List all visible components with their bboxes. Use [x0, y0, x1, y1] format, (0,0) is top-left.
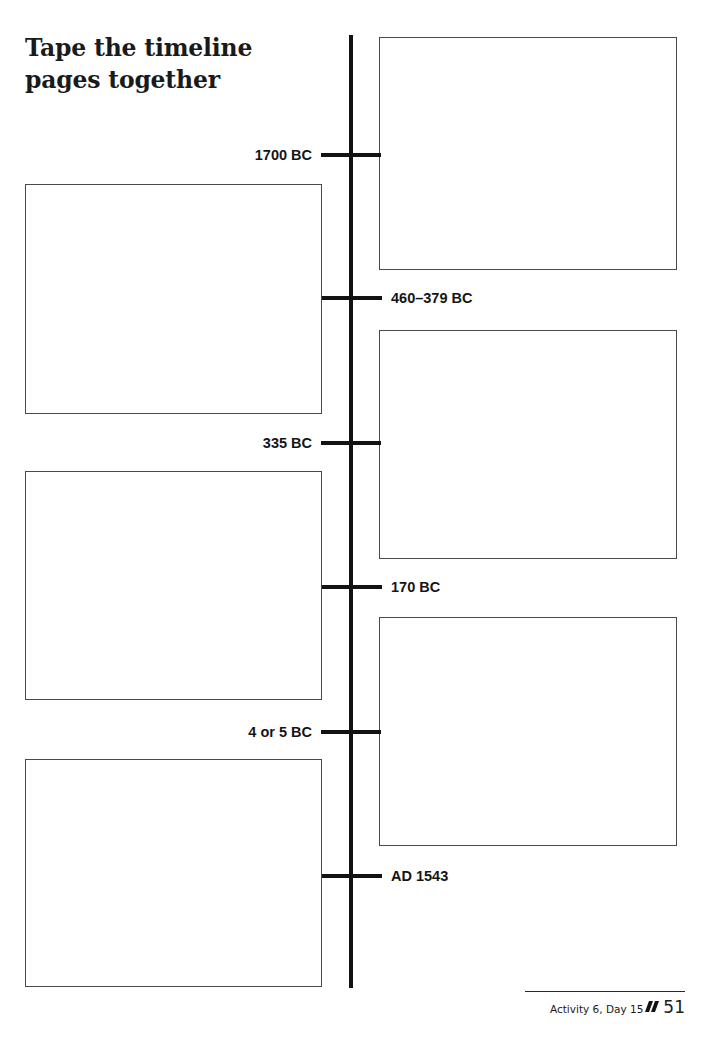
- timeline-tick-rule: [322, 296, 382, 299]
- frame-right-2: [379, 330, 677, 559]
- footer-divider: [525, 991, 685, 992]
- footer-slash-marks-icon: [647, 1001, 657, 1012]
- timeline-tick-label: 1700 BC: [255, 148, 312, 163]
- footer-activity-label: Activity 6, Day 15: [550, 1003, 643, 1015]
- timeline-tick-3: 335 BC: [263, 433, 381, 453]
- worksheet-page: Tape the timeline pages together 1700 BC…: [0, 0, 710, 1039]
- timeline-axis: [349, 35, 353, 988]
- timeline-tick-2: 460–379 BC: [322, 288, 472, 308]
- page-number: 51: [663, 997, 685, 1017]
- page-footer: Activity 6, Day 15 51: [525, 991, 685, 1017]
- frame-left-1: [25, 184, 322, 414]
- timeline-tick-rule: [322, 874, 382, 877]
- frame-left-3: [25, 759, 322, 987]
- timeline-tick-label: 170 BC: [391, 580, 440, 595]
- timeline-tick-label: 335 BC: [263, 436, 312, 451]
- timeline-tick-label: AD 1543: [391, 869, 448, 884]
- frame-right-1: [379, 37, 677, 270]
- page-title: Tape the timeline pages together: [25, 32, 325, 96]
- timeline-tick-1: 1700 BC: [255, 145, 381, 165]
- timeline-tick-5: 4 or 5 BC: [248, 722, 381, 742]
- timeline-tick-rule: [321, 441, 381, 444]
- footer-line: Activity 6, Day 15 51: [525, 997, 685, 1017]
- frame-right-3: [379, 617, 677, 846]
- frame-left-2: [25, 471, 322, 700]
- timeline-tick-rule: [322, 585, 382, 588]
- timeline-tick-4: 170 BC: [322, 577, 440, 597]
- timeline-tick-rule: [321, 153, 381, 156]
- timeline-tick-label: 460–379 BC: [391, 291, 472, 306]
- timeline-tick-6: AD 1543: [322, 866, 448, 886]
- timeline-tick-rule: [321, 730, 381, 733]
- timeline-tick-label: 4 or 5 BC: [248, 725, 312, 740]
